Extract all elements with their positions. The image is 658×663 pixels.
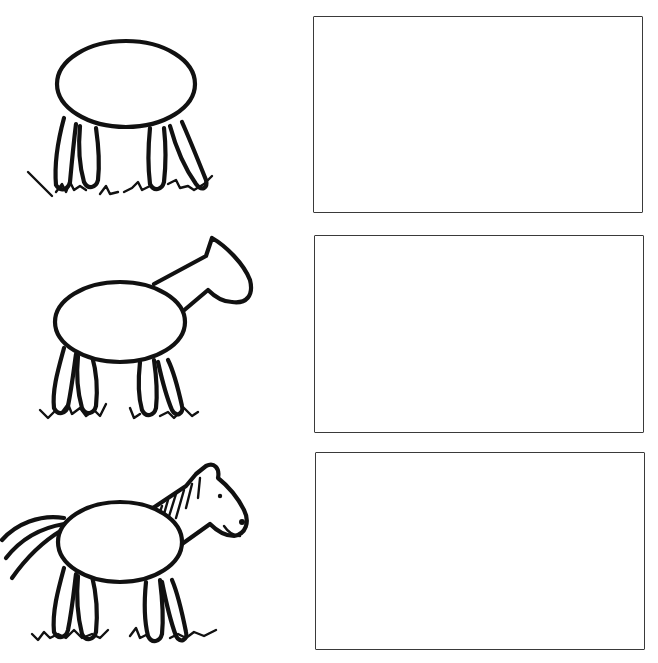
practice-box-step-3[interactable] xyxy=(315,452,645,650)
horse-body-legs-icon xyxy=(0,0,290,215)
step-3-drawing: complete horse with mane, ear, eye, nost… xyxy=(0,440,290,655)
step-2-drawing: body and legs with neck and head outline… xyxy=(0,220,290,435)
horse-complete-icon xyxy=(0,440,290,655)
practice-box-step-1[interactable] xyxy=(313,16,643,213)
step-1-drawing: oval body with four legs standing on gra… xyxy=(0,0,290,215)
horse-head-outline-icon xyxy=(0,220,290,435)
practice-box-step-2[interactable] xyxy=(314,235,644,433)
